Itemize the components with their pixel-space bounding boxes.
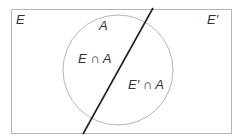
sample-space-rectangle bbox=[12, 10, 232, 134]
label-e-complement-intersect-a: E′ ∩ A bbox=[128, 77, 164, 92]
label-e-complement: E′ bbox=[207, 12, 219, 27]
venn-diagram: E E′ A E ∩ A E′ ∩ A bbox=[0, 0, 236, 140]
partition-line bbox=[83, 8, 153, 134]
label-a: A bbox=[98, 18, 108, 33]
label-e-intersect-a: E ∩ A bbox=[78, 51, 111, 66]
label-e: E bbox=[16, 12, 25, 27]
